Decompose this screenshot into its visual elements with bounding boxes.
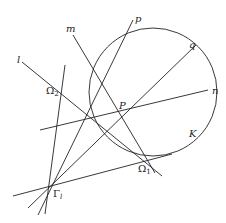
label-n: n xyxy=(212,85,218,96)
label-K: K xyxy=(188,128,197,139)
line-l xyxy=(22,62,162,176)
geometry-diagram: l m n p q K P Ω2 Ω1 Γl xyxy=(0,0,226,223)
label-P: P xyxy=(118,100,126,111)
label-q: q xyxy=(189,39,195,50)
label-p: p xyxy=(135,13,142,24)
label-gamma-l: Γl xyxy=(53,188,62,201)
label-m: m xyxy=(66,23,75,34)
label-l: l xyxy=(17,54,20,65)
label-omega2: Ω2 xyxy=(46,85,59,98)
